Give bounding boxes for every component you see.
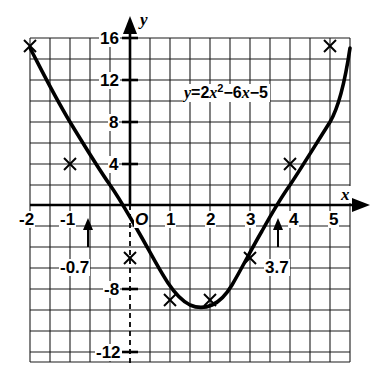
x-tick-label-neg2: -2 [18, 211, 35, 228]
equation-term3: −5 [250, 84, 268, 101]
root-arrow-right [273, 218, 283, 247]
y-tick-label-4: 4 [108, 156, 119, 173]
y-tick-label-8: 8 [108, 114, 119, 131]
y-tick-label-16: 16 [99, 30, 120, 47]
x-tick-label-3: 3 [245, 211, 256, 228]
x-tick-label-4: 4 [288, 211, 299, 228]
graph-figure: 16 12 8 4 -8 -12 -2 -1 O 1 2 3 4 5 y x -… [0, 0, 377, 377]
x-tick-label-neg1: -1 [59, 211, 76, 228]
x-tick-label-2: 2 [205, 211, 216, 228]
root-annotation-right: 3.7 [264, 259, 290, 276]
x-tick-label-1: 1 [165, 211, 176, 228]
root-annotation-left: -0.7 [59, 259, 90, 276]
y-tick-label-neg12: -12 [95, 344, 122, 361]
equation-term2: −6 [223, 84, 241, 101]
y-tick-label-neg8: -8 [103, 281, 120, 298]
parabola-plot [0, 0, 377, 377]
equation-var2: x [242, 84, 250, 101]
y-tick-label-12: 12 [99, 72, 120, 89]
x-tick-label-origin: O [134, 211, 149, 228]
root-arrow-left [83, 218, 93, 247]
x-axis-label: x [340, 186, 351, 203]
x-tick-label-5: 5 [328, 211, 339, 228]
y-axis-label: y [139, 11, 149, 28]
x-axis [30, 198, 370, 212]
y-axis [123, 16, 137, 365]
equation-label: y=2x2−6x−5 [182, 84, 270, 102]
